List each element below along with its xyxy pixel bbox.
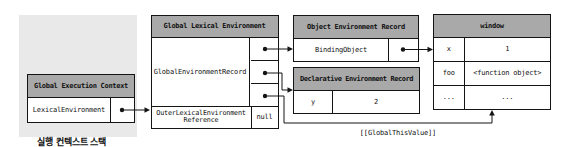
window-object-title: window bbox=[434, 15, 550, 38]
variable-value-cell: 2 bbox=[333, 91, 419, 113]
outer-lexical-environment-reference-label: OuterLexicalEnvironment Reference bbox=[152, 107, 251, 128]
table-row: x 1 bbox=[434, 38, 550, 62]
lexical-environment-pointer-cell bbox=[110, 98, 134, 123]
global-this-value-annotation: [[GlobalThisValue]] bbox=[338, 129, 458, 137]
table-row: foo <function object> bbox=[434, 62, 550, 86]
object-environment-record-box: Object Environment Record BindingObject bbox=[293, 15, 419, 62]
global-execution-context-box: Global Execution Context LexicalEnvironm… bbox=[27, 74, 135, 123]
lexical-environment-row: LexicalEnvironment bbox=[28, 98, 134, 123]
table-row: ... ... bbox=[434, 86, 550, 109]
property-value-cell: 1 bbox=[465, 38, 551, 61]
property-name-cell: ... bbox=[434, 86, 465, 109]
binding-object-label: BindingObject bbox=[294, 39, 388, 62]
table-row: y 2 bbox=[294, 91, 419, 113]
global-lexical-environment-body: GlobalEnvironmentRecord OuterLexicalEnvi… bbox=[152, 38, 278, 128]
declarative-environment-record-title: Declarative Environment Record bbox=[294, 68, 419, 91]
global-this-pointer-cell bbox=[251, 84, 278, 106]
global-lexical-environment-box: Global Lexical Environment GlobalEnviron… bbox=[151, 15, 279, 129]
global-execution-context-title: Global Execution Context bbox=[28, 75, 134, 98]
property-name-cell: x bbox=[434, 38, 465, 61]
global-lexical-environment-title: Global Lexical Environment bbox=[152, 16, 278, 39]
variable-name-cell: y bbox=[294, 91, 333, 113]
outer-reference-row: OuterLexicalEnvironment Reference null bbox=[152, 106, 278, 128]
declarative-environment-record-box: Declarative Environment Record y 2 bbox=[293, 67, 420, 114]
outer-ref-line2: Reference bbox=[183, 117, 218, 125]
global-environment-record-label: GlobalEnvironmentRecord bbox=[152, 38, 250, 106]
object-environment-record-title: Object Environment Record bbox=[294, 16, 418, 39]
arrowhead-icon bbox=[489, 110, 495, 116]
outer-reference-value: null bbox=[251, 107, 278, 128]
property-name-cell: foo bbox=[434, 62, 465, 85]
property-value-cell: ... bbox=[465, 86, 551, 109]
window-object-table: window x 1 foo <function object> ... ... bbox=[433, 14, 551, 110]
record-pointer-column bbox=[251, 38, 278, 106]
execution-context-diagram: Global Execution Context LexicalEnvironm… bbox=[0, 0, 571, 147]
window-object-rows: x 1 foo <function object> ... ... bbox=[434, 38, 550, 109]
arrowhead-icon bbox=[145, 107, 151, 113]
binding-object-row: BindingObject bbox=[294, 39, 418, 62]
property-value-cell: <function object> bbox=[465, 62, 551, 85]
stack-caption: 실행 컨텍스트 스택 bbox=[22, 137, 122, 147]
declarative-record-pointer-cell bbox=[251, 61, 278, 84]
object-record-pointer-cell bbox=[251, 38, 278, 61]
lexical-environment-label: LexicalEnvironment bbox=[28, 98, 110, 123]
binding-object-pointer-cell bbox=[388, 39, 418, 62]
